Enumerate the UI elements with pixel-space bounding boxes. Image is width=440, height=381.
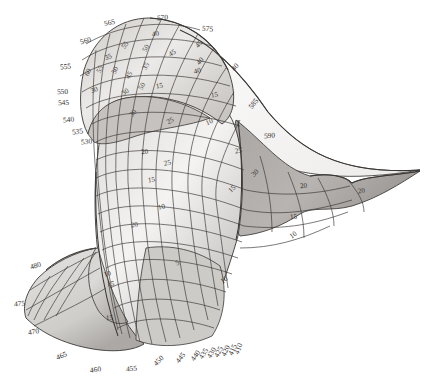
- surface-plot-figure: 5655705755605555505455405355305855904804…: [0, 0, 440, 381]
- surface-plot-canvas: [0, 0, 440, 381]
